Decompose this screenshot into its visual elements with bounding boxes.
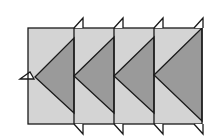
bottom-fold-tab-3	[154, 124, 163, 134]
bottom-fold-tab-4	[194, 124, 203, 134]
panel-group	[20, 18, 203, 134]
top-fold-tab-4	[194, 18, 203, 28]
diagram-canvas	[0, 0, 213, 140]
top-fold-tab-3	[154, 18, 163, 28]
bottom-fold-tab-1	[74, 124, 83, 134]
top-fold-tab-1	[74, 18, 83, 28]
top-fold-tab-2	[114, 18, 123, 28]
bottom-fold-tab-2	[114, 124, 123, 134]
